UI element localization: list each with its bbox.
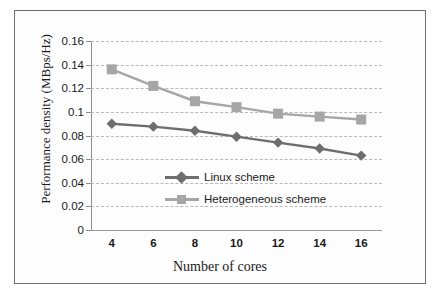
x-tick-label: 16: [355, 237, 368, 249]
y-tick-label: 0.04: [62, 177, 84, 189]
data-point-marker: [148, 81, 158, 91]
data-point-marker: [315, 112, 325, 122]
data-point-marker: [314, 143, 324, 153]
data-point-marker: [356, 115, 366, 125]
legend-swatch-square-icon: [165, 192, 199, 206]
y-tick-label: 0.12: [62, 82, 84, 94]
y-tick-label: 0: [78, 224, 84, 236]
legend-marker-square-icon: [177, 195, 186, 204]
series-heterogeneous-scheme: [107, 64, 366, 124]
legend-label: Linux scheme: [204, 171, 275, 183]
data-point-marker: [273, 137, 283, 147]
y-axis-title: Performance density (MBps/Hz): [38, 24, 54, 214]
chart-legend: Linux schemeHeterogeneous scheme: [165, 166, 326, 210]
y-tick-label: 0.08: [62, 130, 84, 142]
data-point-marker: [231, 131, 241, 141]
data-point-marker: [190, 126, 200, 136]
y-tick-label: 0.1: [68, 106, 84, 118]
legend-label: Heterogeneous scheme: [204, 193, 326, 205]
data-point-marker: [107, 118, 117, 128]
x-tick-label: 4: [109, 237, 115, 249]
figure-frame: Performance density (MBps/Hz) 00.020.040…: [14, 10, 426, 284]
series-linux-scheme: [107, 118, 367, 160]
data-point-marker: [107, 64, 117, 74]
legend-marker-diamond-icon: [175, 171, 188, 184]
data-point-marker: [273, 109, 283, 119]
y-tick-label: 0.14: [62, 59, 84, 71]
x-tick-label: 14: [313, 237, 326, 249]
x-tick-label: 8: [192, 237, 198, 249]
data-point-marker: [190, 96, 200, 106]
x-tick-label: 12: [272, 237, 285, 249]
legend-entry: Linux scheme: [165, 166, 326, 188]
x-axis-title: Number of cores: [15, 259, 425, 275]
x-tick-label: 10: [230, 237, 243, 249]
data-point-marker: [148, 121, 158, 131]
y-tick-mark: [86, 230, 91, 231]
data-point-marker: [232, 102, 242, 112]
gridline: [91, 230, 382, 231]
y-tick-label: 0.02: [62, 200, 84, 212]
y-tick-label: 0.06: [62, 153, 84, 165]
legend-swatch-diamond-icon: [165, 170, 199, 184]
y-tick-label: 0.16: [62, 35, 84, 47]
legend-entry: Heterogeneous scheme: [165, 188, 326, 210]
chart-plot-wrapper: Performance density (MBps/Hz) 00.020.040…: [15, 11, 425, 283]
data-point-marker: [356, 150, 366, 160]
x-tick-label: 6: [150, 237, 156, 249]
